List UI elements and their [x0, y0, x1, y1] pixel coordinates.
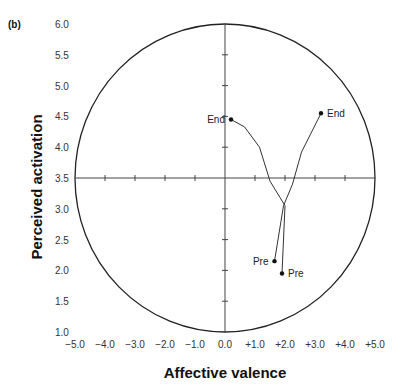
- point-label-pre: Pre: [253, 256, 269, 267]
- y-tick-label: 4.0: [55, 142, 69, 153]
- y-tick-label: 2.0: [55, 265, 69, 276]
- x-tick-label: −1.0: [185, 339, 205, 350]
- y-tick-label: 3.5: [55, 173, 69, 184]
- x-tick-label: −3.0: [125, 339, 145, 350]
- y-axis-title: Perceived activation: [28, 114, 45, 259]
- trajectory-line: [231, 120, 285, 274]
- x-axis-tick-labels: −5.0−4.0−3.0−2.0−1.00.0+1.0+2.0+3.0+4.0+…: [65, 339, 385, 350]
- y-tick-label: 1.5: [55, 296, 69, 307]
- y-tick-label: 3.0: [55, 204, 69, 215]
- trajectory-line: [275, 113, 322, 261]
- x-tick-label: 0.0: [218, 339, 232, 350]
- x-axis-title: Affective valence: [164, 364, 287, 381]
- data-point: [229, 117, 233, 121]
- y-tick-label: 5.0: [55, 81, 69, 92]
- data-point: [272, 259, 276, 263]
- x-tick-label: −5.0: [65, 339, 85, 350]
- y-axis-tick-labels: 1.01.52.02.53.03.54.04.55.05.56.0: [55, 19, 69, 338]
- x-tick-label: +4.0: [335, 339, 355, 350]
- trajectory-series: [229, 111, 323, 276]
- x-tick-label: +1.0: [245, 339, 265, 350]
- data-point: [280, 271, 284, 275]
- x-tick-label: +3.0: [305, 339, 325, 350]
- point-label-end: End: [327, 108, 345, 119]
- panel-label: (b): [8, 19, 21, 30]
- y-tick-label: 2.5: [55, 235, 69, 246]
- y-tick-label: 5.5: [55, 50, 69, 61]
- y-tick-label: 4.5: [55, 111, 69, 122]
- data-point: [319, 111, 323, 115]
- x-tick-label: −2.0: [155, 339, 175, 350]
- circumplex-chart: (b) 1.01.52.02.53.03.54.04.55.05.56.0 −5…: [0, 0, 408, 390]
- y-tick-label: 1.0: [55, 327, 69, 338]
- y-tick-label: 6.0: [55, 19, 69, 30]
- point-label-pre: Pre: [288, 268, 304, 279]
- x-tick-label: +5.0: [365, 339, 385, 350]
- x-tick-label: −4.0: [95, 339, 115, 350]
- x-tick-label: +2.0: [275, 339, 295, 350]
- point-label-end: End: [207, 114, 225, 125]
